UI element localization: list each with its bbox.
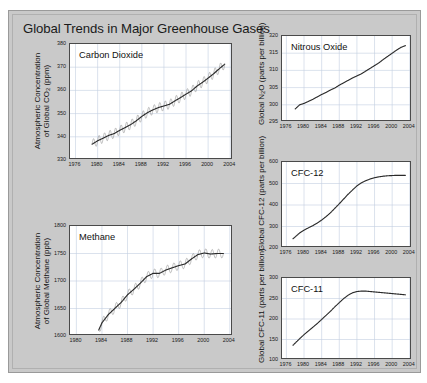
y-tick-carbon-dioxide-340: 340 <box>49 133 66 139</box>
y-axis-label-line1-carbon-dioxide: Atmospheric Concentration <box>33 53 42 150</box>
x-tick-cfc-12-1984: 1984 <box>315 249 327 255</box>
y-axis-label-carbon-dioxide: Atmospheric Concentrationof Global CO2 (… <box>33 41 52 161</box>
figure-title: Global Trends in Major Greenhouse Gases <box>23 21 270 36</box>
y-tick-methane-1800: 1800 <box>49 222 66 228</box>
plot-title-carbon-dioxide: Carbon Dioxide <box>79 50 143 60</box>
x-tick-cfc-11-1976: 1976 <box>279 361 291 367</box>
plot-title-methane: Methane <box>79 232 115 242</box>
x-tick-methane-2004: 2004 <box>223 337 235 343</box>
y-tick-cfc-11-300: 300 <box>261 274 278 280</box>
data-line-methane <box>99 253 224 330</box>
x-tick-carbon-dioxide-1992: 1992 <box>157 161 169 167</box>
data-line-nitrous-oxide <box>295 46 405 109</box>
y-tick-nitrous-oxide-310: 310 <box>261 66 278 72</box>
data-line-cfc-11 <box>293 291 405 345</box>
x-tick-cfc-11-1988: 1988 <box>332 361 344 367</box>
x-tick-nitrous-oxide-2000: 2000 <box>385 123 397 129</box>
data-line-carbon-dioxide <box>92 64 225 144</box>
x-tick-carbon-dioxide-2000: 2000 <box>201 161 213 167</box>
y-tick-cfc-12-500: 500 <box>261 180 278 186</box>
x-tick-carbon-dioxide-1980: 1980 <box>91 161 103 167</box>
y-tick-methane-1650: 1650 <box>49 305 66 311</box>
x-tick-nitrous-oxide-1992: 1992 <box>350 123 362 129</box>
x-tick-carbon-dioxide-1976: 1976 <box>69 161 81 167</box>
y-tick-cfc-11-150: 150 <box>261 336 278 342</box>
x-tick-methane-1980: 1980 <box>69 337 81 343</box>
y-tick-methane-1600: 1600 <box>49 332 66 338</box>
x-tick-cfc-11-1996: 1996 <box>368 361 380 367</box>
data-line-cfc-12 <box>293 175 405 238</box>
x-tick-carbon-dioxide-1996: 1996 <box>179 161 191 167</box>
plot-title-cfc-11: CFC-11 <box>291 284 323 294</box>
y-tick-cfc-12-300: 300 <box>261 223 278 229</box>
x-tick-cfc-11-1980: 1980 <box>297 361 309 367</box>
x-tick-carbon-dioxide-2004: 2004 <box>223 161 235 167</box>
y-tick-methane-1700: 1700 <box>49 277 66 283</box>
y-tick-nitrous-oxide-300: 300 <box>261 101 278 107</box>
x-tick-methane-1996: 1996 <box>172 337 184 343</box>
x-tick-methane-1992: 1992 <box>146 337 158 343</box>
y-tick-cfc-11-250: 250 <box>261 295 278 301</box>
x-tick-nitrous-oxide-1980: 1980 <box>297 123 309 129</box>
x-tick-methane-2000: 2000 <box>197 337 209 343</box>
x-tick-nitrous-oxide-1988: 1988 <box>332 123 344 129</box>
x-tick-nitrous-oxide-1996: 1996 <box>368 123 380 129</box>
y-tick-carbon-dioxide-350: 350 <box>49 110 66 116</box>
y-tick-nitrous-oxide-320: 320 <box>261 32 278 38</box>
y-axis-label-nitrous-oxide: Global N2O (parts per billion) <box>257 33 267 125</box>
y-axis-label-line1-cfc-12: Global CFC-12 (parts per billion) <box>257 136 266 251</box>
x-tick-nitrous-oxide-1976: 1976 <box>279 123 291 129</box>
y-axis-label-line1-cfc-11: Global CFC-11 (parts per billion) <box>257 248 266 363</box>
y-axis-label-line1-methane: Atmospheric Concentration <box>33 233 42 330</box>
plot-title-nitrous-oxide: Nitrous Oxide <box>291 42 347 52</box>
x-tick-cfc-12-1996: 1996 <box>368 249 380 255</box>
x-tick-cfc-11-2004: 2004 <box>403 361 415 367</box>
y-tick-cfc-12-600: 600 <box>261 158 278 164</box>
x-tick-methane-1988: 1988 <box>121 337 133 343</box>
x-tick-cfc-12-1992: 1992 <box>350 249 362 255</box>
x-tick-nitrous-oxide-2004: 2004 <box>403 123 415 129</box>
x-tick-cfc-11-2000: 2000 <box>385 361 397 367</box>
plot-title-cfc-12: CFC-12 <box>291 168 324 178</box>
y-tick-cfc-11-100: 100 <box>261 356 278 362</box>
x-tick-cfc-12-1980: 1980 <box>297 249 309 255</box>
y-axis-label-line2-carbon-dioxide: of Global CO2 (ppm) <box>42 41 52 161</box>
x-tick-cfc-12-1976: 1976 <box>279 249 291 255</box>
x-tick-cfc-11-1984: 1984 <box>315 361 327 367</box>
y-tick-carbon-dioxide-380: 380 <box>49 40 66 46</box>
greenhouse-gas-figure: Global Trends in Major Greenhouse Gases … <box>8 10 421 373</box>
y-tick-methane-1750: 1750 <box>49 250 66 256</box>
y-tick-cfc-12-400: 400 <box>261 201 278 207</box>
y-tick-carbon-dioxide-370: 370 <box>49 63 66 69</box>
x-tick-cfc-11-1992: 1992 <box>350 361 362 367</box>
y-tick-nitrous-oxide-315: 315 <box>261 49 278 55</box>
y-tick-carbon-dioxide-330: 330 <box>49 156 66 162</box>
y-tick-nitrous-oxide-305: 305 <box>261 84 278 90</box>
x-tick-carbon-dioxide-1988: 1988 <box>135 161 147 167</box>
x-tick-methane-1984: 1984 <box>95 337 107 343</box>
y-tick-nitrous-oxide-295: 295 <box>261 118 278 124</box>
x-tick-nitrous-oxide-1984: 1984 <box>315 123 327 129</box>
y-tick-cfc-11-200: 200 <box>261 315 278 321</box>
y-tick-carbon-dioxide-360: 360 <box>49 86 66 92</box>
plot-area-carbon-dioxide <box>69 43 232 159</box>
x-tick-cfc-12-1988: 1988 <box>332 249 344 255</box>
x-tick-cfc-12-2000: 2000 <box>385 249 397 255</box>
x-tick-carbon-dioxide-1984: 1984 <box>113 161 125 167</box>
x-tick-cfc-12-2004: 2004 <box>403 249 415 255</box>
